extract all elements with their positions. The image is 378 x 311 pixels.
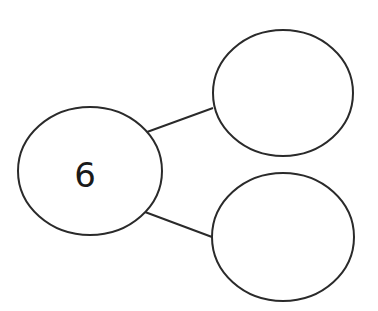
connector-bottom bbox=[145, 212, 212, 237]
connector-top bbox=[147, 108, 213, 132]
part-circle-bottom bbox=[212, 173, 354, 301]
whole-number: 6 bbox=[74, 155, 96, 195]
number-bond-diagram: 6 bbox=[0, 0, 378, 311]
part-circle-top bbox=[213, 30, 353, 156]
